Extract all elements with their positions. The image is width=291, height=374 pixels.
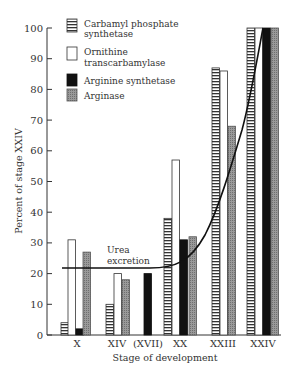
x-tick-label: XXIII [210,338,236,349]
arginine-synthetase-bar [144,274,152,335]
urea-annotation-line2: excretion [107,256,150,266]
ornithine-transcarbamylase-bar [114,274,122,335]
y-tick-label: 0 [37,330,43,341]
ornithine-transcarbamylase-bar [255,28,263,335]
x-tick-label: XIV [108,338,127,349]
ornithine-transcarbamylase-bar [172,160,180,335]
legend-item-ornithine-transcarbamylase: Ornithine transcarbamylase [67,47,165,68]
arginine-synthetase-bar [76,329,84,335]
gray-stipple-swatch-icon [67,89,77,101]
open-swatch-icon [67,47,77,60]
legend-item-carbamyl-phosphate-synthetase: Carbamyl phosphate synthetase [67,19,179,39]
y-tick-label: 30 [30,237,43,248]
ornithine-transcarbamylase-bar [220,71,228,335]
chart: 0102030405060708090100 Percent of stage … [0,0,291,374]
x-tick-label: (XVII) [133,338,163,349]
carbamyl-phosphate-synthetase-bar [247,28,255,335]
y-tick-label: 60 [30,145,43,156]
horizontal-stripes-swatch-icon [67,19,77,32]
legend-label: synthetase [84,29,133,39]
arginase-bar [122,280,130,335]
y-tick-label: 90 [30,53,43,64]
x-tick-label: XX [173,338,188,349]
x-axis-title: Stage of development [112,352,217,363]
y-tick-label: 10 [30,299,43,310]
y-axis: 0102030405060708090100 [24,23,52,341]
y-axis-title: Percent of stage XXIV [13,128,24,234]
urea-annotation-line1: Urea [107,245,130,255]
arginine-synthetase-bar [180,240,188,335]
ornithine-transcarbamylase-bar [68,240,76,335]
solid-black-swatch-icon [67,74,77,86]
carbamyl-phosphate-synthetase-bar [106,304,114,335]
legend-item-arginase: Arginase [67,89,125,101]
legend-label: Arginase [83,91,125,101]
x-tick-label: X [73,338,81,349]
legend-label: Arginine synthetase [83,76,175,86]
bars [61,28,279,335]
y-tick-label: 50 [30,176,43,187]
x-tick-labels: XXIV(XVII)XXXXIIIXXIV [73,338,276,349]
carbamyl-phosphate-synthetase-bar [61,323,69,335]
carbamyl-phosphate-synthetase-bar [164,218,172,335]
legend-label: Carbamyl phosphate [84,19,179,29]
y-tick-label: 100 [24,23,43,34]
arginase-bar [271,28,279,335]
legend-label: transcarbamylase [84,58,165,68]
y-tick-label: 40 [30,207,43,218]
y-tick-label: 80 [30,84,43,95]
arginine-synthetase-bar [263,28,271,335]
legend-label: Ornithine [84,47,128,57]
y-tick-label: 70 [30,115,43,126]
legend: Carbamyl phosphate synthetase Ornithine … [67,19,179,101]
arginase-bar [83,252,91,335]
legend-item-arginine-synthetase: Arginine synthetase [67,74,175,86]
y-tick-label: 20 [30,268,43,279]
x-tick-label: XXIV [250,338,276,349]
